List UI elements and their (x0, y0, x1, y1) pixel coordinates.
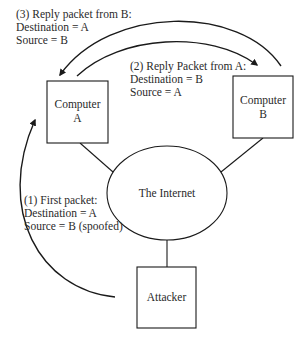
svg-text:(1) First packet:: (1) First packet: (24, 194, 97, 207)
computer-a-label: Computer (55, 98, 101, 111)
svg-text:Destination = B: Destination = B (130, 73, 203, 85)
svg-text:Destination = A: Destination = A (24, 207, 98, 219)
svg-text:Destination = A: Destination = A (16, 21, 90, 33)
svg-text:Source = B: Source = B (16, 34, 68, 46)
ip-spoofing-diagram: Computer A Computer B The Internet Attac… (0, 0, 300, 340)
computer-b-id: B (259, 108, 267, 120)
svg-text:Source = A: Source = A (130, 86, 183, 98)
svg-text:Source = B (spoofed): Source = B (spoofed) (24, 220, 123, 233)
link-b-internet (221, 138, 263, 172)
packet-3-label: (3) Reply packet from B: Destination = A… (16, 8, 132, 46)
packet-2-label: (2) Reply Packet from A: Destination = B… (130, 60, 246, 98)
computer-b-label: Computer (240, 94, 286, 107)
computer-a-id: A (73, 112, 82, 124)
svg-text:(2) Reply Packet from A:: (2) Reply Packet from A: (130, 60, 246, 73)
internet-label: The Internet (139, 187, 196, 199)
attacker-label: Attacker (147, 291, 187, 303)
computer-b-box (233, 76, 293, 138)
svg-text:(3) Reply packet from B:: (3) Reply packet from B: (16, 8, 132, 21)
link-a-internet (80, 143, 113, 172)
